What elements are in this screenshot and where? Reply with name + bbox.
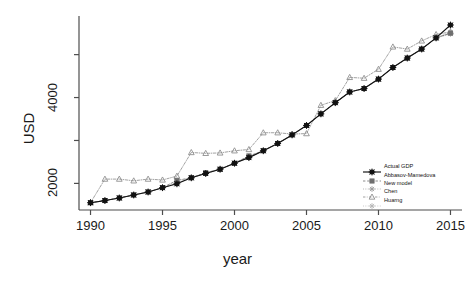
data-point-marker (247, 156, 251, 160)
legend-item[interactable]: New model (362, 179, 470, 187)
data-point-marker (290, 133, 294, 137)
legend-item[interactable]: Abbasov-Mamedova (362, 170, 470, 178)
data-point-marker (448, 31, 452, 35)
legend-label: Chen (384, 187, 397, 195)
data-point-marker (103, 199, 107, 203)
data-point-marker (218, 167, 222, 171)
legend-marker-icon (362, 187, 382, 195)
legend-item[interactable]: Chen (362, 187, 470, 195)
legend-label: Huarng (384, 196, 402, 204)
data-point-marker (117, 196, 121, 200)
data-point-marker (348, 90, 352, 94)
data-point-marker (102, 176, 108, 181)
data-point-marker (276, 142, 280, 146)
legend-item[interactable]: Huarng (362, 196, 470, 204)
data-point-marker (232, 148, 238, 153)
x-axis-tick-label: 2010 (356, 218, 400, 233)
x-axis-tick-label: 1995 (141, 218, 185, 233)
legend-marker-icon (362, 162, 382, 170)
data-point-marker (434, 36, 438, 40)
data-point-marker (204, 172, 208, 176)
data-point-marker (449, 23, 453, 27)
data-point-marker (161, 186, 165, 190)
data-point-marker (391, 66, 395, 70)
data-point-marker (146, 190, 150, 194)
legend-marker-icon (362, 171, 382, 179)
legend-label: Actual GDP (384, 162, 413, 170)
x-axis-tick-label: 1990 (69, 218, 113, 233)
data-point-marker (376, 66, 382, 71)
data-point-marker (217, 150, 223, 155)
x-axis-tick-label: 2000 (213, 218, 257, 233)
x-axis-tick-label: 2015 (428, 218, 472, 233)
legend-item[interactable]: Actual GDP (362, 162, 470, 170)
legend-marker-icon (362, 179, 382, 187)
data-point-marker (304, 131, 310, 136)
y-axis-title: USD (20, 94, 37, 164)
chart-legend: Actual GDPAbbasov-MamedovaNew modelChenH… (362, 162, 470, 204)
data-point-marker (319, 112, 323, 116)
legend-marker-icon (362, 196, 382, 204)
legend-label: New model (384, 179, 412, 187)
data-point-marker (405, 56, 409, 60)
x-axis-title: year (0, 250, 475, 267)
data-point-marker (132, 193, 136, 197)
data-point-marker (305, 124, 309, 128)
y-axis-tick-label: 4000 (45, 75, 60, 119)
data-point-marker (175, 182, 179, 186)
chart-canvas (0, 0, 475, 281)
legend-label: Abbasov-Mamedova (384, 171, 435, 179)
data-point-marker (333, 101, 337, 105)
data-point-marker (362, 87, 366, 91)
data-point-marker (261, 149, 265, 153)
data-point-marker (116, 176, 122, 181)
data-point-marker (260, 130, 266, 135)
data-point-marker (233, 161, 237, 165)
x-axis-tick-label: 2005 (284, 218, 328, 233)
data-point-marker (275, 130, 281, 135)
data-point-marker (377, 77, 381, 81)
data-point-marker (369, 203, 375, 209)
data-point-marker (89, 201, 93, 205)
data-point-marker (347, 74, 353, 79)
data-point-marker (145, 176, 151, 181)
data-point-marker (189, 176, 193, 180)
y-axis-tick-label: 2000 (45, 161, 60, 205)
data-point-marker (390, 44, 396, 49)
data-point-marker (420, 47, 424, 51)
data-point-marker (188, 149, 194, 154)
